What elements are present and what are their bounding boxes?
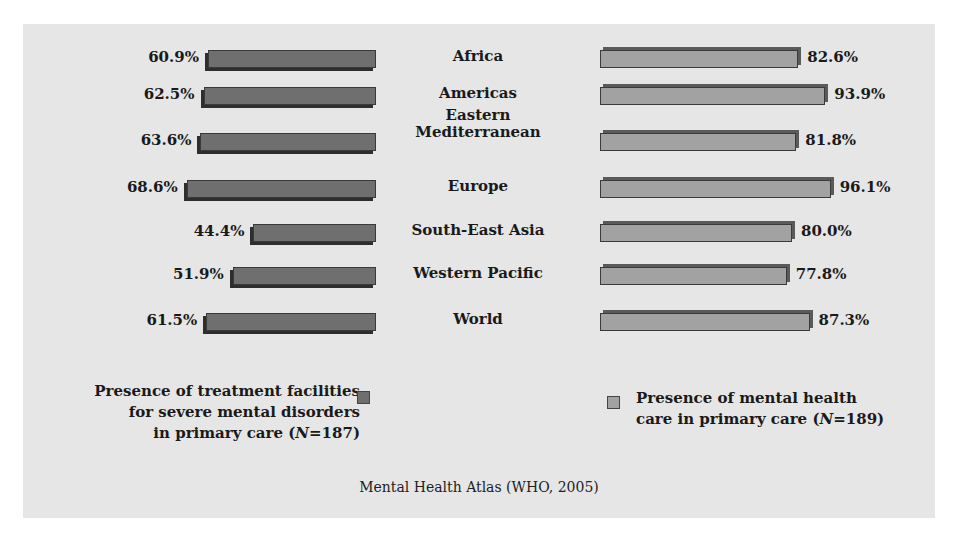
value-label-right: 81.8% bbox=[805, 131, 856, 149]
legend-line: Presence of mental health bbox=[636, 388, 884, 409]
legend-text: care in primary care ( bbox=[636, 410, 820, 428]
legend-text: in primary care ( bbox=[153, 424, 295, 442]
bar-mental-health-care bbox=[600, 313, 810, 331]
legend-line: Presence of treatment facilities bbox=[94, 381, 360, 402]
bar-mental-health-care bbox=[600, 224, 792, 242]
bar-treatment-facilities bbox=[187, 180, 376, 198]
source-caption: Mental Health Atlas (WHO, 2005) bbox=[23, 479, 935, 495]
legend-n: N bbox=[820, 410, 834, 428]
chart-row: 68.6%Europe96.1% bbox=[23, 174, 935, 204]
category-label: South-East Asia bbox=[393, 222, 563, 239]
bar-mental-health-care bbox=[600, 87, 825, 105]
category-label: EasternMediterranean bbox=[393, 107, 563, 141]
bar-treatment-facilities bbox=[204, 87, 377, 105]
chart-panel: 60.9%Africa82.6%62.5%Americas93.9%63.6%E… bbox=[23, 24, 935, 518]
legend-line: care in primary care (N=189) bbox=[636, 409, 884, 430]
legend-label-treatment-facilities: Presence of treatment facilitiesfor seve… bbox=[94, 381, 360, 444]
bar-treatment-facilities bbox=[233, 267, 376, 285]
bar-treatment-facilities bbox=[253, 224, 376, 242]
value-label-left: 62.5% bbox=[144, 85, 195, 103]
category-label-line1: Eastern bbox=[393, 107, 563, 124]
legend-label-mental-health-care: Presence of mental healthcare in primary… bbox=[636, 388, 884, 430]
bar-mental-health-care bbox=[600, 180, 831, 198]
bar-treatment-facilities bbox=[208, 50, 376, 68]
value-label-left: 51.9% bbox=[173, 265, 224, 283]
bar-treatment-facilities bbox=[200, 133, 376, 151]
value-label-right: 96.1% bbox=[840, 178, 891, 196]
category-label: Africa bbox=[393, 48, 563, 65]
legend-line: in primary care (N=187) bbox=[94, 423, 360, 444]
bar-mental-health-care bbox=[600, 267, 787, 285]
value-label-left: 61.5% bbox=[146, 311, 197, 329]
bar-treatment-facilities bbox=[206, 313, 376, 331]
value-label-left: 63.6% bbox=[141, 131, 192, 149]
category-label: Western Pacific bbox=[393, 265, 563, 282]
legend-text: =187) bbox=[309, 424, 360, 442]
category-label-line1: South-East Asia bbox=[393, 222, 563, 239]
category-label-line1: Western Pacific bbox=[393, 265, 563, 282]
category-label-line1: Americas bbox=[393, 85, 563, 102]
category-label: Americas bbox=[393, 85, 563, 102]
legend-text: =189) bbox=[833, 410, 884, 428]
value-label-right: 87.3% bbox=[819, 311, 870, 329]
category-label-line1: World bbox=[393, 311, 563, 328]
category-label-line1: Europe bbox=[393, 178, 563, 195]
bar-mental-health-care bbox=[600, 50, 798, 68]
value-label-right: 80.0% bbox=[801, 222, 852, 240]
chart-row: 60.9%Africa82.6% bbox=[23, 44, 935, 74]
value-label-right: 82.6% bbox=[807, 48, 858, 66]
chart-row: 44.4%South-East Asia80.0% bbox=[23, 218, 935, 248]
chart-row: 63.6%EasternMediterranean81.8% bbox=[23, 127, 935, 157]
chart-row: 61.5%World87.3% bbox=[23, 307, 935, 337]
category-label-line2: Mediterranean bbox=[393, 124, 563, 141]
value-label-left: 44.4% bbox=[194, 222, 245, 240]
bar-mental-health-care bbox=[600, 133, 796, 151]
legend-swatch-dark bbox=[357, 391, 370, 404]
category-label: Europe bbox=[393, 178, 563, 195]
value-label-left: 68.6% bbox=[127, 178, 178, 196]
chart-row: 51.9%Western Pacific77.8% bbox=[23, 261, 935, 291]
legend-line: for severe mental disorders bbox=[94, 402, 360, 423]
value-label-left: 60.9% bbox=[148, 48, 199, 66]
legend-swatch-light bbox=[607, 396, 620, 409]
category-label: World bbox=[393, 311, 563, 328]
legend-n: N bbox=[295, 424, 309, 442]
value-label-right: 93.9% bbox=[834, 85, 885, 103]
category-label-line1: Africa bbox=[393, 48, 563, 65]
value-label-right: 77.8% bbox=[796, 265, 847, 283]
